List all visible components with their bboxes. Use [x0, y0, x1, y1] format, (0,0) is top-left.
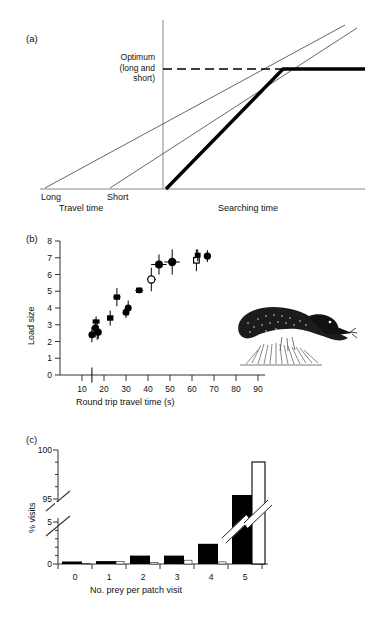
- tangent-short-line: [110, 28, 357, 188]
- short-label: Short: [107, 192, 129, 202]
- panel-c-xtick-4: 4: [201, 572, 221, 582]
- bar-observed: [130, 556, 150, 564]
- panel-c-xtick-1: 1: [99, 572, 119, 582]
- bar-predicted: [218, 562, 226, 564]
- data-point: [113, 288, 121, 306]
- data-point: [88, 327, 95, 382]
- long-label: Long: [41, 192, 61, 202]
- data-point: [151, 254, 166, 274]
- panel-b-ytick-2: 2: [32, 337, 52, 347]
- panel-b-ytick-7: 7: [32, 253, 52, 263]
- travel-time-label: Travel time: [59, 203, 103, 213]
- panel-c: (c) % visits: [0, 418, 385, 630]
- panel-c-xtick-5: 5: [235, 572, 255, 582]
- bar-observed: [96, 561, 116, 564]
- data-point: [204, 250, 211, 262]
- panel-b-y-ticks: [55, 241, 60, 375]
- panel-b-xtick-30: 30: [116, 384, 136, 394]
- panel-a: (a) Optimum (long and short) Long Short …: [0, 0, 385, 215]
- bar-predicted: [116, 562, 124, 565]
- panel-b-ytick-3: 3: [32, 320, 52, 330]
- bar-predicted: [150, 562, 158, 564]
- panel-c-xtick-2: 2: [133, 572, 153, 582]
- panel-c-ytick-0: 0: [24, 559, 52, 569]
- y-axis-gap-mask: [55, 502, 62, 518]
- panel-b-xtick-90: 90: [248, 384, 268, 394]
- panel-b-ytick-8: 8: [32, 236, 52, 246]
- bar-observed: [164, 556, 184, 564]
- panel-c-ytick-5: 5: [24, 517, 52, 527]
- panel-c-xlabel: No. prey per patch visit: [90, 585, 182, 595]
- tangent-long-line: [45, 25, 345, 188]
- data-point-open: [147, 268, 156, 292]
- gain-curve: [166, 69, 365, 189]
- figure-panel-group: (a) Optimum (long and short) Long Short …: [0, 0, 385, 630]
- panel-b-xlabel: Round trip travel time (s): [76, 397, 175, 407]
- panel-b-xtick-40: 40: [138, 384, 158, 394]
- starling-illustration: [238, 307, 357, 365]
- panel-c-x-ticks: [58, 564, 262, 569]
- panel-b-xtick-60: 60: [182, 384, 202, 394]
- data-point: [135, 287, 143, 294]
- panel-c-xtick-3: 3: [167, 572, 187, 582]
- panel-b-ytick-5: 5: [32, 286, 52, 296]
- panel-b-ytick-6: 6: [32, 270, 52, 280]
- bar-observed: [198, 544, 218, 564]
- panel-b-xtick-70: 70: [204, 384, 224, 394]
- data-point: [107, 311, 113, 326]
- panel-c-bars: [62, 462, 265, 564]
- panel-b-xtick-10: 10: [72, 384, 92, 394]
- panel-b-xtick-80: 80: [226, 384, 246, 394]
- bar-observed: [62, 562, 82, 565]
- data-point-open: [193, 249, 200, 271]
- panel-b-ytick-4: 4: [32, 303, 52, 313]
- panel-b: (b) Load size: [0, 215, 385, 420]
- panel-c-ytick-95: 95: [24, 494, 52, 504]
- panel-b-data-series: [88, 249, 211, 382]
- panel-b-xtick-20: 20: [94, 384, 114, 394]
- bar-predicted: [184, 560, 192, 564]
- panel-c-xtick-0: 0: [65, 572, 85, 582]
- searching-time-label: Searching time: [218, 203, 278, 213]
- panel-c-ytick-100: 100: [24, 445, 52, 455]
- panel-c-y-ticks-upper: [53, 450, 58, 499]
- panel-b-ytick-1: 1: [32, 353, 52, 363]
- panel-c-plot: [0, 418, 385, 630]
- panel-b-xtick-50: 50: [160, 384, 180, 394]
- panel-b-x-ticks: [82, 375, 258, 381]
- data-point: [164, 249, 179, 274]
- panel-a-plot: [0, 0, 385, 215]
- panel-b-ytick-0: 0: [32, 370, 52, 380]
